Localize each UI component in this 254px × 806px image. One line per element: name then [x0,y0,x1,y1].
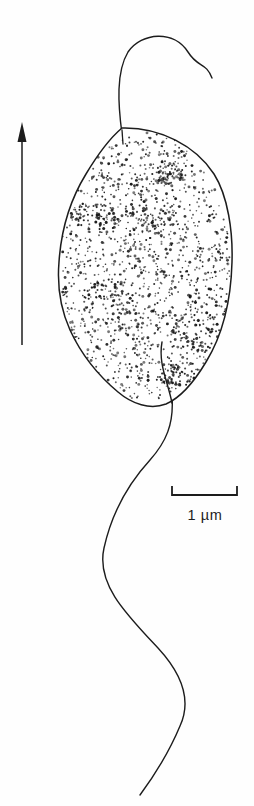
figure-root: 1 µm [0,0,254,806]
scale-bar-label: 1 µm [188,507,223,523]
flagellate-cell-diagram [0,0,254,806]
figure-background [0,0,254,806]
